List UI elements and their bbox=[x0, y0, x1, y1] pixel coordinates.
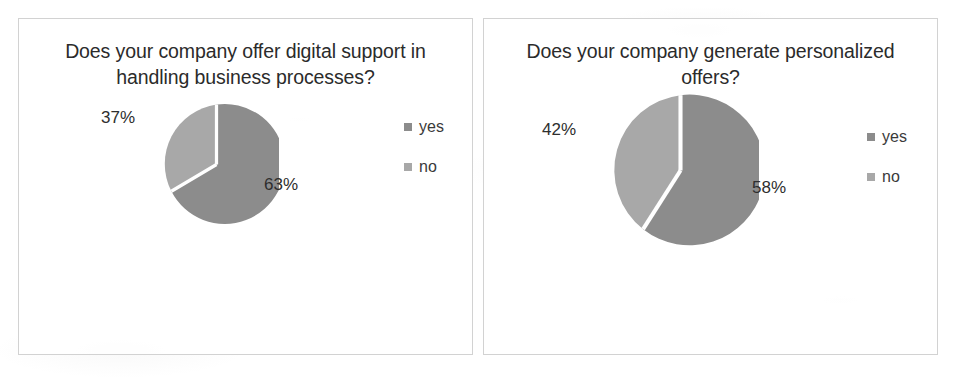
legend-label-no: no bbox=[882, 168, 900, 186]
legend-item-yes[interactable]: yes bbox=[867, 128, 907, 146]
legend: yes no bbox=[404, 118, 444, 176]
legend-label-yes: yes bbox=[882, 128, 907, 146]
legend-swatch-no-icon bbox=[404, 163, 412, 171]
legend-label-yes: yes bbox=[419, 118, 444, 136]
plot-area: 37% 63% yes no bbox=[19, 90, 472, 290]
pie-label-yes-percent: 58% bbox=[752, 178, 786, 198]
legend-swatch-yes-icon bbox=[867, 133, 875, 141]
legend-swatch-no-icon bbox=[867, 173, 875, 181]
charts-row: Does your company offer digital support … bbox=[0, 0, 970, 378]
legend-label-no: no bbox=[419, 158, 437, 176]
pie-label-yes-percent: 63% bbox=[264, 175, 298, 195]
pie-label-no-percent: 42% bbox=[542, 120, 576, 140]
legend-item-yes[interactable]: yes bbox=[404, 118, 444, 136]
chart-panel-personalized-offers: Does your company generate personalized … bbox=[483, 18, 938, 355]
legend-item-no[interactable]: no bbox=[867, 168, 907, 186]
plot-area: 42% 58% yes no bbox=[484, 90, 937, 290]
pie-svg bbox=[602, 92, 759, 249]
chart-title: Does your company generate personalized … bbox=[484, 19, 937, 90]
legend-swatch-yes-icon bbox=[404, 123, 412, 131]
chart-title: Does your company offer digital support … bbox=[19, 19, 472, 90]
legend-item-no[interactable]: no bbox=[404, 158, 444, 176]
pie-label-no-percent: 37% bbox=[101, 108, 135, 128]
chart-panel-digital-support: Does your company offer digital support … bbox=[18, 18, 473, 355]
pie-chart bbox=[154, 102, 279, 227]
pie-chart bbox=[602, 92, 759, 249]
legend: yes no bbox=[867, 128, 907, 186]
pie-svg bbox=[154, 102, 279, 227]
